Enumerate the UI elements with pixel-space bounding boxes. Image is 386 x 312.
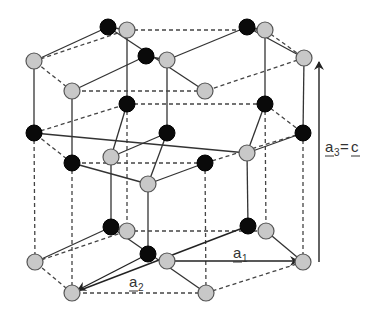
atom-gray <box>296 50 312 66</box>
atom-black <box>138 48 154 64</box>
svg-text:2: 2 <box>138 282 144 293</box>
atom-gray <box>198 285 214 301</box>
atom-gray <box>258 223 274 239</box>
vector-a2-label: a 2 <box>129 273 144 293</box>
atom-black <box>240 218 256 234</box>
atom-gray <box>103 149 119 165</box>
atom-black <box>197 155 213 171</box>
atom-gray <box>26 53 42 69</box>
middle-hexagon <box>34 104 303 184</box>
atom-black <box>239 19 255 35</box>
atom-gray <box>257 22 273 38</box>
atom-black <box>140 246 156 262</box>
atom-gray <box>197 83 213 99</box>
svg-text:1: 1 <box>242 253 248 264</box>
svg-text:=: = <box>340 138 349 155</box>
crystal-structure-diagram: a 1 a 2 a 3 = c <box>0 0 386 312</box>
atom-black <box>295 125 311 141</box>
svg-text:a: a <box>129 273 138 290</box>
atom-black <box>159 125 175 141</box>
atom-black <box>100 19 116 35</box>
atom-gray <box>159 52 175 68</box>
atom-gray <box>295 254 311 270</box>
vector-a3-label: a 3 = c <box>325 138 360 158</box>
atom-gray <box>159 253 175 269</box>
atom-black <box>103 219 119 235</box>
atoms <box>26 19 312 301</box>
svg-text:a: a <box>325 138 334 155</box>
svg-text:c: c <box>351 138 359 155</box>
atom-gray <box>27 254 43 270</box>
atom-gray <box>64 83 80 99</box>
atom-gray <box>119 22 135 38</box>
atom-gray <box>64 285 80 301</box>
atom-gray <box>119 223 135 239</box>
svg-text:a: a <box>233 244 242 261</box>
atom-black <box>257 96 273 112</box>
atom-gray <box>140 176 156 192</box>
atom-black <box>26 125 42 141</box>
atom-gray <box>239 145 255 161</box>
atom-black <box>119 96 135 112</box>
lattice-svg: a 1 a 2 a 3 = c <box>0 0 386 312</box>
atom-black <box>64 155 80 171</box>
